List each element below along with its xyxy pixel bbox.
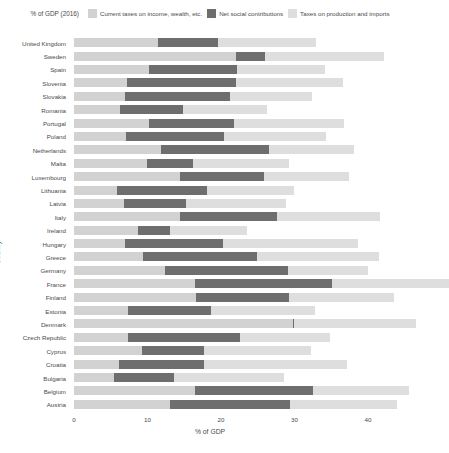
bar-row[interactable] bbox=[74, 266, 368, 275]
y-tick-label: Finland bbox=[46, 294, 66, 301]
bar-row[interactable] bbox=[74, 212, 380, 221]
legend-swatch-income-tax bbox=[88, 9, 97, 18]
y-tick-label: United Kingdom bbox=[22, 39, 66, 46]
bar-segment bbox=[125, 239, 223, 248]
bar-segment bbox=[74, 186, 117, 195]
bar-row[interactable] bbox=[74, 400, 397, 409]
bar-segment bbox=[74, 293, 196, 302]
bar-segment bbox=[207, 186, 294, 195]
bar-segment bbox=[170, 400, 291, 409]
bar-segment bbox=[313, 386, 409, 395]
y-tick-label: Czech Republic bbox=[23, 334, 66, 341]
bar-row[interactable] bbox=[74, 306, 315, 315]
bar-row[interactable] bbox=[74, 360, 347, 369]
bar-row[interactable] bbox=[74, 226, 247, 235]
bar-segment bbox=[224, 132, 326, 141]
bar-segment bbox=[211, 306, 315, 315]
bar-row[interactable] bbox=[74, 199, 286, 208]
legend-item-income-tax[interactable]: Current taxes on income, wealth, etc. bbox=[88, 9, 202, 18]
y-tick-label: Croatia bbox=[46, 361, 66, 368]
bar-segment bbox=[257, 252, 379, 261]
bar-segment bbox=[288, 266, 368, 275]
legend-label-production-tax: Taxes on production and imports bbox=[300, 10, 389, 17]
bar-segment bbox=[240, 333, 330, 342]
bar-segment bbox=[120, 105, 184, 114]
bar-row[interactable] bbox=[74, 159, 289, 168]
bar-segment bbox=[147, 159, 193, 168]
bar-row[interactable] bbox=[74, 239, 358, 248]
y-tick-label: Sweden bbox=[44, 53, 66, 60]
y-tick-label: Hungary bbox=[43, 240, 66, 247]
bar-segment bbox=[74, 252, 143, 261]
chart-legend: % of GDP (2016) Current taxes on income,… bbox=[0, 9, 420, 18]
bar-segment bbox=[143, 252, 257, 261]
bar-segment bbox=[149, 119, 234, 128]
legend-item-production-tax[interactable]: Taxes on production and imports bbox=[288, 9, 389, 18]
bar-segment bbox=[74, 159, 147, 168]
bar-row[interactable] bbox=[74, 132, 326, 141]
y-tick-label: Austria bbox=[47, 401, 66, 408]
bar-row[interactable] bbox=[74, 145, 354, 154]
bar-row[interactable] bbox=[74, 186, 294, 195]
y-tick-label: Slovenia bbox=[42, 79, 66, 86]
bar-segment bbox=[142, 346, 204, 355]
bar-segment bbox=[332, 279, 449, 288]
bar-segment bbox=[74, 132, 126, 141]
bar-segment bbox=[74, 306, 128, 315]
bar-segment bbox=[127, 78, 236, 87]
bar-segment bbox=[165, 266, 288, 275]
bar-segment bbox=[74, 360, 119, 369]
bar-row[interactable] bbox=[74, 346, 311, 355]
y-tick-label: Luxembourg bbox=[32, 173, 66, 180]
bar-row[interactable] bbox=[74, 172, 349, 181]
bar-row[interactable] bbox=[74, 52, 384, 61]
bar-segment bbox=[74, 386, 195, 395]
bar-row[interactable] bbox=[74, 279, 449, 288]
bar-segment bbox=[74, 319, 293, 328]
bar-segment bbox=[74, 226, 138, 235]
bar-segment bbox=[294, 319, 417, 328]
bar-segment bbox=[236, 78, 343, 87]
bar-segment bbox=[117, 186, 207, 195]
bar-row[interactable] bbox=[74, 333, 330, 342]
bar-segment bbox=[128, 333, 240, 342]
y-tick-label: Bulgaria bbox=[43, 374, 66, 381]
y-tick-label: Netherlands bbox=[33, 146, 66, 153]
bar-row[interactable] bbox=[74, 105, 267, 114]
x-tick-label: 30 bbox=[291, 416, 298, 423]
bar-segment bbox=[74, 333, 128, 342]
bar-segment bbox=[265, 52, 384, 61]
bar-row[interactable] bbox=[74, 38, 316, 47]
y-tick-label: Lithuania bbox=[41, 187, 66, 194]
bar-segment bbox=[74, 119, 149, 128]
bar-row[interactable] bbox=[74, 92, 312, 101]
bar-row[interactable] bbox=[74, 252, 379, 261]
y-tick-label: Malta bbox=[51, 160, 66, 167]
bar-row[interactable] bbox=[74, 119, 344, 128]
y-tick-label: Portugal bbox=[43, 120, 66, 127]
bar-segment bbox=[290, 400, 397, 409]
bar-row[interactable] bbox=[74, 78, 343, 87]
legend-label-social-contributions: Net social contributions bbox=[219, 10, 283, 17]
y-tick-label: Estonia bbox=[45, 307, 66, 314]
bar-segment bbox=[74, 266, 165, 275]
bar-row[interactable] bbox=[74, 319, 416, 328]
bar-row[interactable] bbox=[74, 293, 394, 302]
bar-segment bbox=[74, 199, 124, 208]
y-tick-label: Cyprus bbox=[46, 347, 66, 354]
y-tick-label: Italy bbox=[55, 213, 66, 220]
bar-segment bbox=[230, 92, 312, 101]
bar-row[interactable] bbox=[74, 65, 325, 74]
bar-row[interactable] bbox=[74, 373, 284, 382]
bar-segment bbox=[183, 105, 267, 114]
legend-item-social-contributions[interactable]: Net social contributions bbox=[207, 9, 283, 18]
x-tick-label: 0 bbox=[72, 416, 75, 423]
bar-segment bbox=[218, 38, 316, 47]
bar-segment bbox=[237, 65, 324, 74]
bar-row[interactable] bbox=[74, 386, 409, 395]
bar-segment bbox=[277, 212, 380, 221]
bar-segment bbox=[204, 360, 347, 369]
bar-segment bbox=[180, 172, 264, 181]
bar-segment bbox=[138, 226, 170, 235]
y-axis-title: Country bbox=[0, 241, 1, 264]
